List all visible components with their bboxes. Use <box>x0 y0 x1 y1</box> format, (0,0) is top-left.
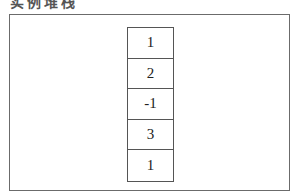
stack-cell: 1 <box>128 150 173 181</box>
stack-column: 1 2 -1 3 1 <box>127 27 174 182</box>
diagram-caption: 实例堆栈 <box>10 0 78 11</box>
stack-cell: 3 <box>128 120 173 151</box>
stack-cell: 1 <box>128 28 173 59</box>
stack-cell: -1 <box>128 89 173 120</box>
stack-cell: 2 <box>128 59 173 90</box>
